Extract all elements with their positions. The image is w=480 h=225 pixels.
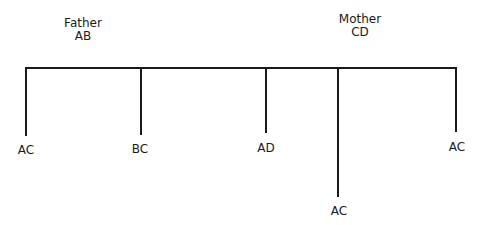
child-1-genotype: AC (6, 144, 46, 157)
father-node: Father AB (43, 17, 123, 43)
child-4-genotype: AC (319, 205, 359, 218)
child-5-genotype: AC (437, 141, 477, 154)
mother-genotype: CD (320, 26, 400, 39)
mother-node: Mother CD (320, 13, 400, 39)
child-2-genotype: BC (120, 143, 160, 156)
child-3-genotype: AD (246, 142, 286, 155)
father-genotype: AB (43, 30, 123, 43)
